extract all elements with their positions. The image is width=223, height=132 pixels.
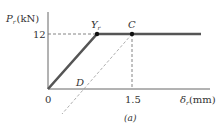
x-axis-label: δr(mm) <box>180 94 216 106</box>
point-c-label: C <box>128 19 136 30</box>
load-deformation-diagram: Pr(kN) 12 Yr C D 0 1.5 δr(mm) (a) <box>0 0 223 132</box>
yield-point-label: Yr <box>91 19 102 31</box>
x-tick-1-5: 1.5 <box>125 94 141 105</box>
x-tick-0: 0 <box>45 94 51 105</box>
yield-point <box>95 32 99 36</box>
point-d-label: D <box>75 77 84 88</box>
unloading-line <box>62 34 132 114</box>
point-c <box>130 32 134 36</box>
caption: (a) <box>124 113 137 123</box>
y-tick-12: 12 <box>33 29 46 40</box>
y-axis-label: Pr(kN) <box>5 13 39 25</box>
